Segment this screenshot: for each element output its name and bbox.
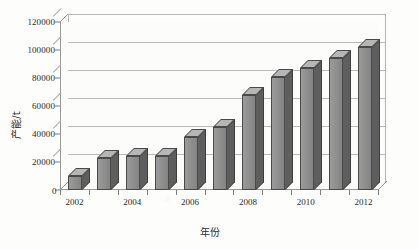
- y-axis-tick-label: 80000: [32, 73, 55, 83]
- bar: [358, 47, 372, 190]
- x-axis-tick-mark: [262, 190, 263, 195]
- bar-side-face: [343, 50, 351, 190]
- y-axis-tick-label: 100000: [27, 45, 55, 55]
- bar-side-face: [372, 39, 380, 190]
- bar: [329, 58, 343, 190]
- bar: [271, 77, 285, 190]
- y-axis-zero-label: 0: [52, 186, 57, 196]
- x-axis-title: 年份: [0, 224, 419, 239]
- bar-front-face: [329, 58, 343, 190]
- bar-front-face: [126, 156, 140, 190]
- bar: [300, 68, 314, 190]
- x-axis-tick-mark: [205, 190, 206, 195]
- bar-front-face: [184, 137, 198, 190]
- bar-side-face: [140, 148, 148, 190]
- bar: [68, 176, 82, 190]
- x-axis-tick-mark: [291, 190, 292, 195]
- bar-front-face: [271, 77, 285, 190]
- x-axis-tick-label: 2004: [123, 197, 141, 207]
- y-axis-tick-label: 120000: [27, 17, 55, 27]
- bar: [242, 95, 256, 190]
- x-axis-tick-mark: [60, 190, 61, 195]
- x-axis-tick-mark: [176, 190, 177, 195]
- x-axis-tick-mark: [147, 190, 148, 195]
- x-axis-tick-mark: [320, 190, 321, 195]
- y-axis-tick-label: 40000: [32, 129, 55, 139]
- x-axis-tick-label: 2006: [181, 197, 199, 207]
- bar-front-face: [242, 95, 256, 190]
- bar: [97, 158, 111, 190]
- x-axis-tick-mark: [349, 190, 350, 195]
- y-axis-tick-label: 20000: [32, 157, 55, 167]
- bar-front-face: [300, 68, 314, 190]
- bar-front-face: [68, 176, 82, 190]
- y-axis-title: 产能/t: [8, 111, 23, 138]
- bar-side-face: [169, 148, 177, 190]
- x-axis-tick-mark: [378, 190, 379, 195]
- bar-side-face: [111, 150, 119, 190]
- bar-side-face: [198, 129, 206, 190]
- gridline: [68, 14, 386, 15]
- bar-front-face: [213, 127, 227, 190]
- bars-group: [60, 22, 378, 190]
- x-axis-tick-mark: [89, 190, 90, 195]
- bar-front-face: [97, 158, 111, 190]
- bar-chart: 产能/t 20000400006000080000100000120000 0 …: [0, 0, 419, 249]
- plot-area: 20000400006000080000100000120000: [60, 22, 378, 190]
- x-axis-tick-label: 2002: [65, 197, 83, 207]
- bar: [126, 156, 140, 190]
- x-axis-tick-label: 2010: [297, 197, 315, 207]
- x-axis-tick-mark: [233, 190, 234, 195]
- bar-front-face: [155, 156, 169, 190]
- bar-side-face: [314, 60, 322, 190]
- bar: [155, 156, 169, 190]
- bar-side-face: [256, 87, 264, 190]
- x-axis-tick-mark: [118, 190, 119, 195]
- bar-front-face: [358, 47, 372, 190]
- bar-side-face: [285, 69, 293, 190]
- bar-side-face: [227, 119, 235, 190]
- bar: [184, 137, 198, 190]
- y-axis-tick-label: 60000: [32, 101, 55, 111]
- x-axis-tick-label: 2008: [239, 197, 257, 207]
- bar: [213, 127, 227, 190]
- x-axis-tick-label: 2012: [355, 197, 373, 207]
- x-axis: 200220042006200820102012: [60, 190, 394, 220]
